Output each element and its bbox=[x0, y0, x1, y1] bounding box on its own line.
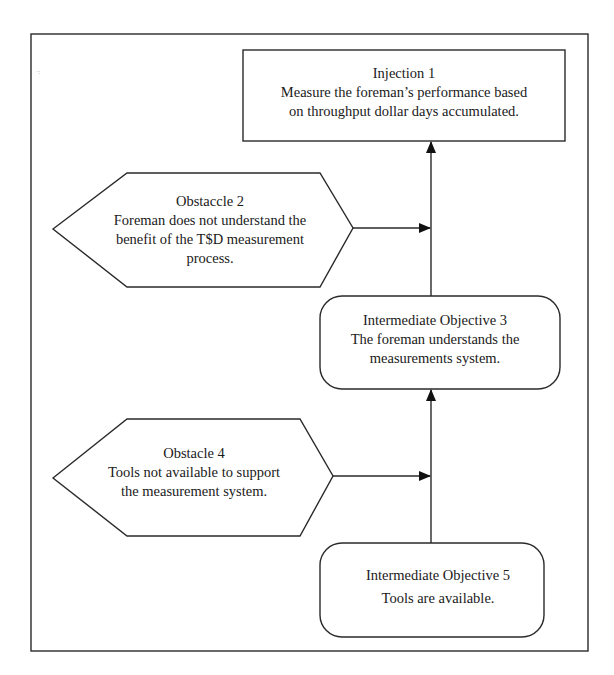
injection-1-title: Injection 1 bbox=[373, 64, 435, 83]
obstacle-4-line-2: the measurement system. bbox=[121, 482, 267, 501]
obstacle-2-label: Obstaccle 2 Foreman does not understand … bbox=[90, 176, 330, 284]
objective-5-title: Intermediate Objective 5 bbox=[366, 564, 510, 587]
injection-1-line-1: Measure the foreman’s performance based bbox=[281, 83, 527, 102]
obstacle-2-line-2: benefit of the T$D measurement bbox=[116, 230, 304, 249]
obstacle-2-title: Obstaccle 2 bbox=[176, 192, 244, 211]
injection-1-line-2: on throughput dollar days accumulated. bbox=[289, 102, 519, 121]
objective-5-label: Intermediate Objective 5 Tools are avail… bbox=[326, 543, 550, 631]
obstacle-4-line-1: Tools not available to support bbox=[108, 463, 280, 482]
injection-1-label: Injection 1 Measure the foreman’s perfor… bbox=[243, 50, 565, 134]
obstacle-4-title: Obstacle 4 bbox=[163, 444, 225, 463]
objective-3-line-1: The foreman understands the bbox=[351, 330, 520, 349]
obstacle-4-label: Obstacle 4 Tools not available to suppor… bbox=[80, 422, 308, 522]
obstacle-2-line-1: Foreman does not understand the bbox=[114, 211, 307, 230]
objective-3-label: Intermediate Objective 3 The foreman und… bbox=[320, 296, 550, 382]
objective-3-title: Intermediate Objective 3 bbox=[363, 311, 507, 330]
objective-5-line-1: Tools are available. bbox=[382, 587, 495, 610]
objective-3-line-2: measurements system. bbox=[370, 349, 500, 368]
obstacle-2-line-3: process. bbox=[186, 249, 233, 268]
scan-artifact: ·: bbox=[36, 68, 40, 76]
